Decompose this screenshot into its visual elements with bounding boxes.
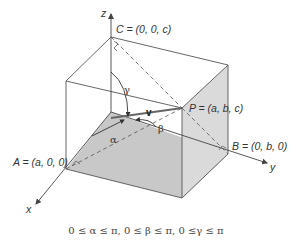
y-axis-label: y <box>269 161 276 173</box>
edge-top-back <box>111 37 228 65</box>
right-face <box>182 65 228 198</box>
angle-range-caption: 0 ≤ α ≤ π, 0 ≤ β ≤ π, 0 ≤γ ≤ π <box>68 225 224 236</box>
direction-angles-diagram: z y x C = (0, 0, c) P = (a, b, c) B = (0… <box>0 0 295 242</box>
point-C-label: C = (0, 0, c) <box>116 23 171 35</box>
point-A-label: A = (a, 0, 0) <box>12 156 68 168</box>
point-P-label: P = (a, b, c) <box>189 102 243 114</box>
z-axis-label: z <box>100 7 107 19</box>
vector-v-label: v <box>146 107 152 118</box>
beta-label: β <box>158 123 164 134</box>
point-B-label: B = (0, b, 0) <box>232 140 287 152</box>
edge-top-left <box>66 37 111 81</box>
right-angle-marker-C <box>114 41 118 51</box>
x-axis-label: x <box>25 203 32 215</box>
alpha-label: α <box>110 134 117 145</box>
gamma-label: γ <box>124 84 130 95</box>
